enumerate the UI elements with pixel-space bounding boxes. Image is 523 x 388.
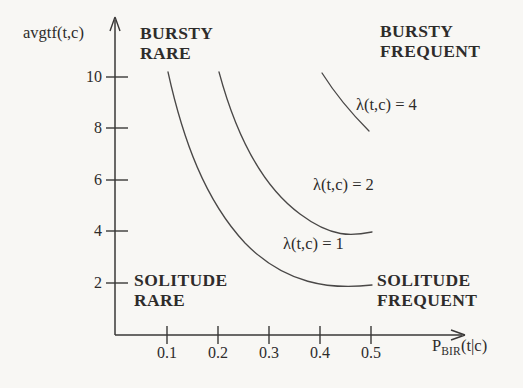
quadrant-label-solitude-rare: SOLITUDE RARE <box>134 271 228 310</box>
x-axis-title-tail: (t|c) <box>461 336 487 355</box>
quadrant-label-line2: FREQUENT <box>377 291 477 311</box>
curve-label-lambda-2: λ(t,c) = 2 <box>313 176 374 194</box>
curve-label-lambda-4: λ(t,c) = 4 <box>356 96 417 114</box>
x-tick-label-0.1: 0.1 <box>145 344 189 362</box>
quadrant-label-solitude-frequent: SOLITUDE FREQUENT <box>377 271 477 310</box>
x-tick-label-0.5: 0.5 <box>349 344 393 362</box>
quadrant-label-line2: RARE <box>134 291 228 311</box>
x-axis-title: PBIR(t|c) <box>432 337 487 358</box>
curve-label-lambda-1: λ(t,c) = 1 <box>283 235 344 253</box>
quadrant-label-line1: SOLITUDE <box>134 271 228 291</box>
x-tick-label-0.2: 0.2 <box>196 344 240 362</box>
y-tick-label-6: 6 <box>68 171 102 189</box>
quadrant-label-line2: FREQUENT <box>380 42 480 62</box>
y-axis-title: avgtf(t,c) <box>23 24 84 42</box>
y-axis-ticks <box>106 77 128 283</box>
curve-lambda-2 <box>219 72 372 234</box>
quadrant-label-line1: BURSTY <box>380 22 480 42</box>
quadrant-label-bursty-rare: BURSTY RARE <box>140 24 213 63</box>
quadrant-label-line1: SOLITUDE <box>377 271 477 291</box>
y-tick-label-4: 4 <box>68 222 102 240</box>
y-tick-label-8: 8 <box>68 119 102 137</box>
quadrant-label-bursty-frequent: BURSTY FREQUENT <box>380 22 480 61</box>
quadrant-label-line1: BURSTY <box>140 24 213 44</box>
y-tick-label-2: 2 <box>68 274 102 292</box>
y-tick-label-10: 10 <box>68 68 102 86</box>
figure-canvas: avgtf(t,c) PBIR(t|c) 2 4 6 8 10 0.1 0.2 … <box>0 0 523 388</box>
x-axis-title-subscript: BIR <box>441 345 461 357</box>
y-axis <box>110 17 120 335</box>
x-tick-label-0.3: 0.3 <box>247 344 291 362</box>
quadrant-label-line2: RARE <box>140 44 213 64</box>
x-axis-title-base: P <box>432 336 441 355</box>
x-tick-label-0.4: 0.4 <box>298 344 342 362</box>
